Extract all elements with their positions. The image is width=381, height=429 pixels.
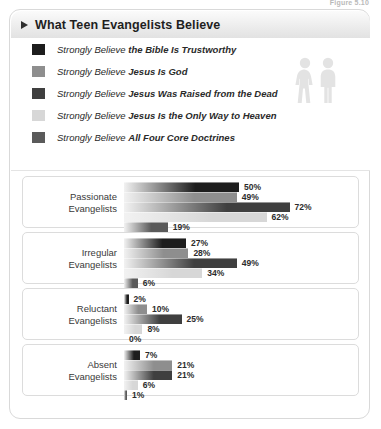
bar-value-label: 1% [132,390,144,400]
bar-value-label: 49% [242,192,259,202]
bar-value-label: 21% [177,370,194,380]
bar-value-label: 50% [244,182,261,192]
bar-row: 19% [124,222,312,231]
bar-value-label: 72% [295,202,312,212]
legend-swatch [32,132,45,143]
bar [124,238,186,248]
bar-value-label: 0% [129,334,141,344]
chart-group-panel: ReluctantEvangelists2%10%25%8%0% [22,288,359,340]
bar-row: 8% [124,324,204,333]
bar [124,380,138,390]
bar-row: 28% [124,248,259,257]
group-label-line1: Passionate [21,191,117,203]
legend-item: Strongly Believe All Four Core Doctrines [32,130,235,145]
legend-label: Strongly Believe Jesus Is God [57,66,187,77]
legend-swatch [32,66,45,77]
bar-value-label: 8% [147,324,159,334]
chart-card: What Teen Evangelists Believe Strongly B… [9,9,370,419]
bar [124,248,188,258]
chart-group-panel: IrregularEvangelists27%28%49%34%6% [22,232,359,284]
bar-value-label: 28% [193,248,210,258]
bar-value-label: 2% [134,294,146,304]
legend-label: Strongly Believe Jesus Is the Only Way t… [57,110,276,121]
legend-item: Strongly Believe Jesus Was Raised from t… [32,86,278,101]
group-category-label: ReluctantEvangelists [21,303,117,326]
bar-row: 49% [124,192,312,201]
bar-row: 27% [124,238,259,247]
legend-item: Strongly Believe the Bible Is Trustworth… [32,42,236,57]
bar-value-label: 7% [145,350,157,360]
group-label-line2: Evangelists [21,203,117,215]
bar [124,370,172,380]
bar-value-label: 21% [177,360,194,370]
bar [124,324,142,334]
legend-swatch [32,110,45,121]
bar [124,192,237,202]
bar [124,212,267,222]
group-label-line2: Evangelists [21,315,117,327]
legend-label: Strongly Believe Jesus Was Raised from t… [57,88,278,99]
bar-row: 62% [124,212,312,221]
bar-row: 49% [124,258,259,267]
legend-item: Strongly Believe Jesus Is the Only Way t… [32,108,276,123]
bar-row: 10% [124,304,204,313]
bar-value-label: 27% [191,238,208,248]
group-label-line1: Absent [21,359,117,371]
triangle-right-icon [21,21,28,29]
bar-value-label: 62% [272,212,289,222]
bar [124,294,129,304]
group-label-line1: Reluctant [21,303,117,315]
bar-row: 25% [124,314,204,323]
bar-value-label: 25% [187,314,204,324]
bar [124,202,290,212]
bar-row: 0% [124,334,204,343]
bar [124,258,237,268]
legend-label: Strongly Believe the Bible Is Trustworth… [57,44,236,55]
group-bars: 2%10%25%8%0% [124,294,204,344]
bar-row: 21% [124,360,194,369]
bar [124,182,239,192]
bar-row: 34% [124,268,259,277]
legend-swatch [32,44,45,55]
chart-group-panel: PassionateEvangelists50%49%72%62%19% [22,176,359,228]
bar-value-label: 19% [173,222,190,232]
bar [124,268,202,278]
group-bars: 27%28%49%34%6% [124,238,259,288]
bar [124,350,140,360]
page-title: What Teen Evangelists Believe [35,18,220,32]
bar [124,390,127,400]
two-people-icon [290,56,342,104]
bar-value-label: 10% [152,304,169,314]
legend-item: Strongly Believe Jesus Is God [32,64,187,79]
bar-value-label: 6% [143,278,155,288]
bar-row: 21% [124,370,194,379]
bar-row: 1% [124,390,194,399]
bar [124,304,147,314]
bar-value-label: 34% [207,268,224,278]
group-bars: 50%49%72%62%19% [124,182,312,232]
bar-value-label: 49% [242,258,259,268]
bar-value-label: 6% [143,380,155,390]
legend-label: Strongly Believe All Four Core Doctrines [57,132,235,143]
group-label-line2: Evangelists [21,259,117,271]
bar-row: 50% [124,182,312,191]
bar-row: 72% [124,202,312,211]
group-bars: 7%21%21%6%1% [124,350,194,400]
group-label-line1: Irregular [21,247,117,259]
group-category-label: IrregularEvangelists [21,247,117,270]
bar-row: 7% [124,350,194,359]
figure-label: Figure 5.10 [330,0,369,6]
chart-group-panel: AbsentEvangelists7%21%21%6%1% [22,344,359,396]
bar [124,278,138,288]
bar [124,314,182,324]
legend-swatch [32,88,45,99]
chart-title-bar: What Teen Evangelists Believe [11,11,370,38]
bar [124,360,172,370]
bar [124,222,168,232]
chart-legend: Strongly Believe the Bible Is Trustworth… [11,38,370,171]
bar-row: 6% [124,278,259,287]
group-label-line2: Evangelists [21,371,117,383]
bar-row: 2% [124,294,204,303]
bar-row: 6% [124,380,194,389]
group-category-label: PassionateEvangelists [21,191,117,214]
